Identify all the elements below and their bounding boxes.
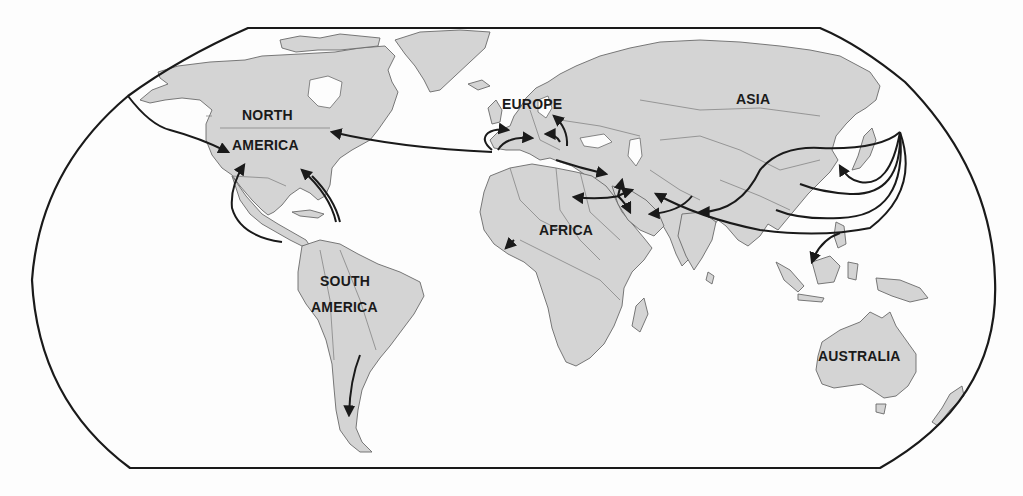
new-guinea [876, 278, 928, 302]
north-america-landmass [140, 46, 398, 215]
borneo [812, 256, 840, 284]
sri-lanka [706, 272, 714, 284]
south-america-landmass [298, 240, 424, 452]
tasmania [876, 404, 886, 414]
label-australia: AUSTRALIA [818, 349, 901, 363]
british-isles [488, 100, 502, 124]
sulawesi [848, 262, 858, 280]
iceland [468, 80, 490, 90]
label-south-america-line2: AMERICA [311, 300, 378, 314]
label-south-america-line1: SOUTH [320, 274, 370, 288]
label-africa: AFRICA [539, 223, 593, 237]
japan [852, 128, 876, 170]
madagascar [632, 298, 648, 332]
cuba [292, 210, 324, 218]
landmasses [140, 30, 964, 452]
label-europe: EUROPE [502, 97, 562, 111]
new-zealand [932, 386, 964, 426]
sumatra [776, 262, 804, 292]
label-north-america-line2: AMERICA [232, 138, 299, 152]
map-canvas [0, 0, 1023, 496]
label-asia: ASIA [736, 92, 770, 106]
world-map: NORTH AMERICA EUROPE ASIA AFRICA SOUTH A… [0, 0, 1023, 496]
java [798, 294, 824, 302]
label-north-america-line1: NORTH [242, 108, 293, 122]
